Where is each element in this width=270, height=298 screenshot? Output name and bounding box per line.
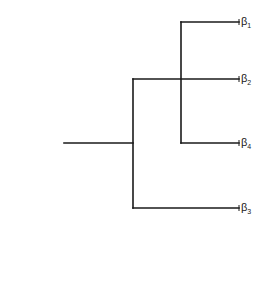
leaf-subscript: 2 bbox=[247, 79, 251, 86]
leaf-label-b3: β3 bbox=[241, 202, 251, 217]
dendrogram bbox=[0, 0, 270, 298]
leaf-subscript: 1 bbox=[247, 22, 251, 29]
leaf-subscript: 4 bbox=[247, 143, 251, 150]
leaf-subscript: 3 bbox=[247, 208, 251, 215]
leaf-label-b2: β2 bbox=[241, 73, 251, 88]
leaf-label-b4: β4 bbox=[241, 137, 251, 152]
leaf-label-b1: β1 bbox=[241, 16, 251, 31]
